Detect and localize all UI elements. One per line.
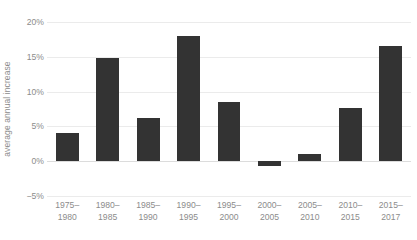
x-axis-tick-label-line2: 1995	[168, 212, 208, 224]
y-axis-tick-label: 0%	[18, 156, 44, 166]
y-axis-title: average annual increase	[0, 22, 14, 196]
x-axis-tick-label-line2: 1990	[128, 212, 168, 224]
x-axis-tick-label: 2005–2010	[290, 200, 330, 223]
bar[interactable]	[339, 108, 362, 161]
x-axis-tick-label-line2: 2015	[330, 212, 370, 224]
y-axis-tick-label: −5%	[18, 191, 44, 201]
x-axis-tick-label: 2015–2017	[371, 200, 411, 223]
x-axis-tick-label-line2: 2005	[249, 212, 289, 224]
x-axis-tick-label-line1: 1995–	[217, 200, 241, 210]
gridline	[47, 196, 411, 197]
x-axis-tick-label-line1: 1990–	[177, 200, 201, 210]
x-axis-tick-label-line2: 2010	[290, 212, 330, 224]
x-axis-tick-labels: 1975–19801980–19851985–19901990–19951995…	[47, 200, 411, 234]
bar-slot	[96, 22, 119, 196]
bar[interactable]	[298, 154, 321, 162]
plot-area	[47, 22, 411, 196]
x-axis-tick-label-line1: 2010–	[338, 200, 362, 210]
x-axis-tick-label: 1975–1980	[47, 200, 87, 223]
bar-slot	[379, 22, 402, 196]
y-axis-tick-label: 5%	[18, 121, 44, 131]
bar-slot	[258, 22, 281, 196]
bar[interactable]	[258, 161, 281, 166]
x-axis-tick-label-line2: 1980	[47, 212, 87, 224]
y-axis-tick-labels: 20%15%10%5%0%−5%	[14, 0, 44, 240]
x-axis-tick-label-line1: 2015–	[379, 200, 403, 210]
x-axis-tick-label: 1995–2000	[209, 200, 249, 223]
y-axis-title-label: average annual increase	[2, 61, 12, 156]
bar-slot	[177, 22, 200, 196]
bar-slot	[56, 22, 79, 196]
x-axis-tick-label: 1990–1995	[168, 200, 208, 223]
bar[interactable]	[56, 133, 79, 161]
bar[interactable]	[218, 102, 241, 161]
y-axis-tick-label: 15%	[18, 52, 44, 62]
x-axis-tick-label-line1: 1980–	[96, 200, 120, 210]
x-axis-tick-label-line1: 1975–	[55, 200, 79, 210]
bar-slot	[218, 22, 241, 196]
bar-chart: average annual increase 20%15%10%5%0%−5%…	[0, 0, 417, 240]
x-axis-tick-label-line1: 2000–	[257, 200, 281, 210]
y-axis-tick-label: 20%	[18, 17, 44, 27]
bar[interactable]	[137, 118, 160, 161]
x-axis-tick-label: 1980–1985	[87, 200, 127, 223]
bar-slot	[298, 22, 321, 196]
x-axis-tick-label-line2: 2000	[209, 212, 249, 224]
bar[interactable]	[96, 58, 119, 161]
x-axis-tick-label-line1: 2005–	[298, 200, 322, 210]
x-axis-tick-label: 1985–1990	[128, 200, 168, 223]
bar-slot	[339, 22, 362, 196]
x-axis-tick-label: 2000–2005	[249, 200, 289, 223]
bar[interactable]	[379, 46, 402, 162]
x-axis-tick-label-line2: 2017	[371, 212, 411, 224]
y-axis-tick-label: 10%	[18, 87, 44, 97]
x-axis-tick-label-line1: 1985–	[136, 200, 160, 210]
bar[interactable]	[177, 36, 200, 161]
x-axis-tick-label-line2: 1985	[87, 212, 127, 224]
bar-series	[47, 22, 411, 196]
x-axis-tick-label: 2010–2015	[330, 200, 370, 223]
bar-slot	[137, 22, 160, 196]
